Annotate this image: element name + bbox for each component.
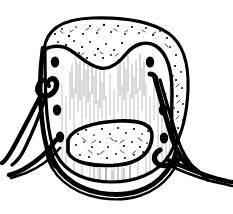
eyelet-right-3 xyxy=(160,132,168,143)
chin-pad xyxy=(68,121,152,166)
eyelet-right-1 xyxy=(146,56,154,67)
eyelet-left-1 xyxy=(51,56,59,67)
eyelet-left-2 xyxy=(53,104,61,115)
helmet-line-drawing: Laced helmet line drawing Front view of … xyxy=(0,0,233,214)
drawing-canvas: Laced helmet line drawing Front view of … xyxy=(0,0,233,214)
